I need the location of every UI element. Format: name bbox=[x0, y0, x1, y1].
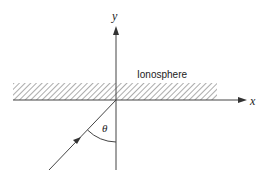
y-axis-label: y bbox=[111, 9, 118, 23]
ionosphere-diagram: x y Ionosphere θ bbox=[0, 0, 267, 180]
x-axis-arrowhead bbox=[238, 97, 247, 103]
ionosphere-layer bbox=[13, 83, 217, 100]
angle-theta-label: θ bbox=[102, 122, 108, 134]
ionosphere-label: Ionosphere bbox=[137, 69, 187, 80]
y-axis-arrowhead bbox=[113, 26, 119, 35]
incident-ray bbox=[49, 100, 116, 170]
x-axis-label: x bbox=[249, 94, 256, 108]
